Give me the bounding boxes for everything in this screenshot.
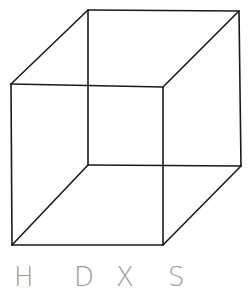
bottom-labels: H D X S bbox=[0, 264, 250, 290]
cube-edge bbox=[239, 11, 241, 166]
cube-edge bbox=[88, 10, 239, 11]
label-s: S bbox=[168, 264, 185, 290]
cube-edge bbox=[11, 84, 12, 245]
label-h: H bbox=[14, 264, 34, 290]
cube-edge bbox=[11, 10, 88, 84]
cube-edge bbox=[11, 84, 163, 87]
cube-edge bbox=[88, 165, 241, 166]
cube-edge bbox=[163, 166, 241, 245]
label-x: X bbox=[116, 264, 134, 290]
label-d: D bbox=[74, 264, 94, 290]
cube-edge bbox=[12, 165, 88, 245]
cube-edge bbox=[163, 11, 239, 87]
